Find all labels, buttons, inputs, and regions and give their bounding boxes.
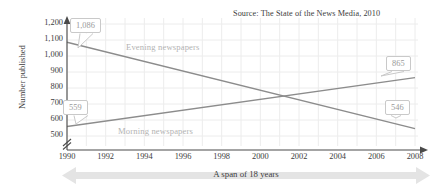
span-banner: A span of 18 years	[62, 163, 430, 188]
x-tick-label: 2000	[252, 152, 269, 161]
x-tick-label: 1998	[213, 152, 230, 161]
chart-figure: Source: The State of the News Media, 201…	[0, 0, 430, 190]
x-tick-label: 2006	[368, 152, 385, 161]
x-axis-title: A span of 18 years	[62, 169, 430, 179]
series-label-morning: Morning newspapers	[118, 126, 193, 136]
callout-value-559: 559	[63, 100, 88, 115]
callout-value-1086: 1,086	[70, 18, 101, 33]
x-tick-label: 1996	[175, 152, 192, 161]
callout-value-546: 546	[385, 100, 410, 115]
callout-tails	[74, 34, 404, 125]
callout-value-865: 865	[386, 56, 411, 71]
x-tick-label: 1990	[59, 152, 76, 161]
x-tick-label: 2008	[407, 152, 424, 161]
x-tick-label: 1994	[136, 152, 153, 161]
series-label-evening: Evening newspapers	[126, 42, 200, 52]
x-tick-label: 2004	[329, 152, 346, 161]
x-tick-label: 1992	[97, 152, 114, 161]
x-tick-label: 2002	[291, 152, 308, 161]
